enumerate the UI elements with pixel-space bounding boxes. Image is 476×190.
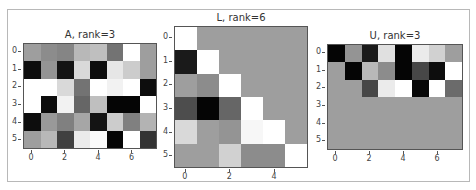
y-tick-label: 5 xyxy=(316,135,321,144)
heatmap-cell xyxy=(263,50,285,73)
y-tick-label: 4 xyxy=(163,127,168,136)
heatmap-cell xyxy=(429,97,446,114)
heatmap-cell xyxy=(395,45,412,62)
heatmap-cell xyxy=(412,80,429,97)
heatmap-cell xyxy=(24,44,41,61)
heatmap-cell xyxy=(429,114,446,131)
heatmap-cell xyxy=(219,50,241,73)
heatmap-cell xyxy=(24,113,41,130)
heatmap-cell xyxy=(197,27,219,50)
heatmap-cell xyxy=(328,97,345,114)
heatmap-cell xyxy=(263,97,285,120)
heatmap-cell xyxy=(107,44,124,61)
heatmap-cell xyxy=(263,74,285,97)
heatmap-cell xyxy=(285,144,307,167)
heatmap-cell xyxy=(285,74,307,97)
heatmap-U xyxy=(327,44,463,150)
x-tick-label: 6 xyxy=(435,154,440,163)
heatmap-cell xyxy=(74,44,91,61)
heatmap-cell xyxy=(41,96,58,113)
x-tick-label: 4 xyxy=(95,153,100,162)
heatmap-cell xyxy=(90,61,107,78)
heatmap-A xyxy=(23,43,157,149)
heatmap-cell xyxy=(241,144,263,167)
heatmap-cell xyxy=(445,62,462,79)
heatmap-cell xyxy=(362,132,379,149)
heatmap-cell xyxy=(140,96,157,113)
heatmap-cell xyxy=(328,132,345,149)
heatmap-cell xyxy=(107,61,124,78)
y-tick-label: 3 xyxy=(316,100,321,109)
heatmap-cell xyxy=(362,97,379,114)
heatmap-cell xyxy=(74,79,91,96)
heatmap-cell xyxy=(140,131,157,148)
heatmap-cell xyxy=(412,132,429,149)
y-tick-label: 5 xyxy=(12,134,17,143)
x-tick-label: 6 xyxy=(129,153,134,162)
heatmap-cell xyxy=(197,144,219,167)
y-tick-label: 3 xyxy=(12,99,17,108)
x-tick-label: 2 xyxy=(227,172,232,181)
heatmap-cell xyxy=(57,113,74,130)
heatmap-cell xyxy=(107,96,124,113)
heatmap-cell xyxy=(345,45,362,62)
heatmap-cell xyxy=(241,74,263,97)
heatmap-cell xyxy=(345,62,362,79)
heatmap-cell xyxy=(285,97,307,120)
heatmap-cell xyxy=(219,27,241,50)
x-tick-label: 0 xyxy=(28,153,33,162)
heatmap-cell xyxy=(429,80,446,97)
heatmap-cell xyxy=(140,61,157,78)
heatmap-cell xyxy=(445,114,462,131)
heatmap-cell xyxy=(445,132,462,149)
y-tick-label: 2 xyxy=(163,79,168,88)
y-tick-label: 2 xyxy=(12,81,17,90)
heatmap-cell xyxy=(395,132,412,149)
y-tick-label: 4 xyxy=(316,118,321,127)
heatmap-cell xyxy=(328,80,345,97)
heatmap-cell xyxy=(107,113,124,130)
heatmap-cell xyxy=(140,79,157,96)
y-tick-label: 0 xyxy=(12,46,17,55)
y-tick-label: 0 xyxy=(316,47,321,56)
heatmap-cell xyxy=(263,27,285,50)
heatmap-cell xyxy=(57,96,74,113)
x-tick-label: 4 xyxy=(401,154,406,163)
y-tick-label: 3 xyxy=(163,103,168,112)
heatmap-cell xyxy=(123,131,140,148)
heatmap-cell xyxy=(429,132,446,149)
heatmap-cell xyxy=(412,97,429,114)
heatmap-cell xyxy=(378,114,395,131)
heatmap-cell xyxy=(412,114,429,131)
heatmap-cell xyxy=(328,62,345,79)
heatmap-cell xyxy=(140,113,157,130)
heatmap-cell xyxy=(362,62,379,79)
heatmap-cell xyxy=(362,114,379,131)
heatmap-cell xyxy=(57,61,74,78)
heatmap-cell xyxy=(395,97,412,114)
heatmap-cell xyxy=(328,45,345,62)
heatmap-cell xyxy=(241,97,263,120)
heatmap-cell xyxy=(74,131,91,148)
heatmap-cell xyxy=(445,80,462,97)
heatmap-cell xyxy=(378,80,395,97)
heatmap-cell xyxy=(123,96,140,113)
heatmap-cell xyxy=(57,131,74,148)
heatmap-cell xyxy=(90,131,107,148)
heatmap-cell xyxy=(429,45,446,62)
heatmap-cell xyxy=(219,120,241,143)
heatmap-cell xyxy=(140,44,157,61)
heatmap-cell xyxy=(285,120,307,143)
heatmap-cell xyxy=(41,79,58,96)
heatmap-cell xyxy=(412,62,429,79)
y-tick-label: 5 xyxy=(163,150,168,159)
heatmap-cell xyxy=(175,144,197,167)
x-tick-label: 0 xyxy=(333,154,338,163)
x-tick-label: 0 xyxy=(182,172,187,181)
heatmap-cell xyxy=(445,97,462,114)
y-tick-label: 1 xyxy=(316,65,321,74)
heatmap-cell xyxy=(175,50,197,73)
heatmap-cell xyxy=(362,80,379,97)
heatmap-cell xyxy=(412,45,429,62)
heatmap-cell xyxy=(90,96,107,113)
